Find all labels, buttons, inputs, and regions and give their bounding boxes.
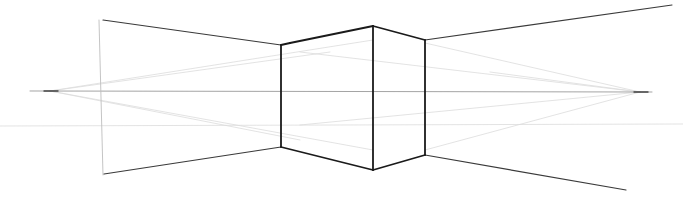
guide-ray (50, 91, 300, 140)
lower-guide-line (0, 124, 683, 126)
guide-ray (300, 52, 640, 92)
guide-ray (50, 40, 373, 91)
guide-ray (300, 92, 640, 125)
sketch-svg (0, 0, 683, 198)
frame-line-left (99, 20, 103, 175)
guide-ray (425, 43, 640, 92)
box-top-left-edge (290, 26, 373, 43)
box-top-right-edge (373, 26, 425, 40)
guide-ray (425, 92, 640, 150)
guide-ray (50, 91, 373, 150)
box-outline (281, 26, 425, 170)
horizon-line (30, 91, 652, 92)
lower-right-ray (425, 155, 626, 190)
upper-left-ray (103, 20, 281, 45)
frame-line-left-stroke (99, 20, 103, 175)
upper-right-ray (425, 5, 672, 40)
box-bottom-right-edge (373, 155, 425, 170)
box-bottom-left-edge (281, 147, 373, 170)
lower-left-ray (104, 147, 281, 174)
horizon-line-stroke (30, 91, 652, 92)
lower-guide-line-stroke (0, 124, 683, 126)
guide-ray (50, 52, 330, 91)
box-top-left-notch (281, 43, 290, 45)
perspective-sketch (0, 0, 683, 198)
perspective-guide-rays (50, 40, 640, 150)
